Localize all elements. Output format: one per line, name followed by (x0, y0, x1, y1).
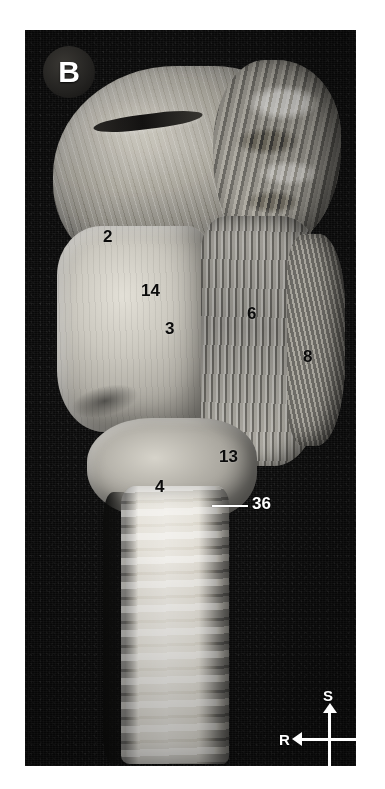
specimen-photograph: B 21436813436 S I R L (25, 30, 356, 766)
leader-line-36 (212, 505, 248, 507)
compass-label-superior: S (323, 688, 333, 703)
panel-label-text: B (58, 57, 80, 87)
figure-page: B 21436813436 S I R L (0, 0, 385, 789)
panel-label-badge: B (43, 46, 95, 98)
compass-arrowhead-right (292, 732, 302, 746)
tracheal-cartilage-rings (121, 486, 229, 764)
label-4: 4 (155, 478, 164, 495)
label-36: 36 (252, 495, 271, 512)
label-2: 2 (103, 228, 112, 245)
label-6: 6 (247, 305, 256, 322)
label-3: 3 (165, 320, 174, 337)
label-14: 14 (141, 282, 160, 299)
compass-horizontal-axis (299, 738, 356, 741)
orientation-compass: S I R L (283, 692, 356, 766)
pharyngeal-fold-highlights (221, 74, 333, 234)
label-8: 8 (303, 348, 312, 365)
compass-label-right: R (279, 732, 290, 747)
label-13: 13 (219, 448, 238, 465)
lateral-fascial-sheet (287, 234, 345, 446)
compass-arrowhead-superior (323, 703, 337, 713)
